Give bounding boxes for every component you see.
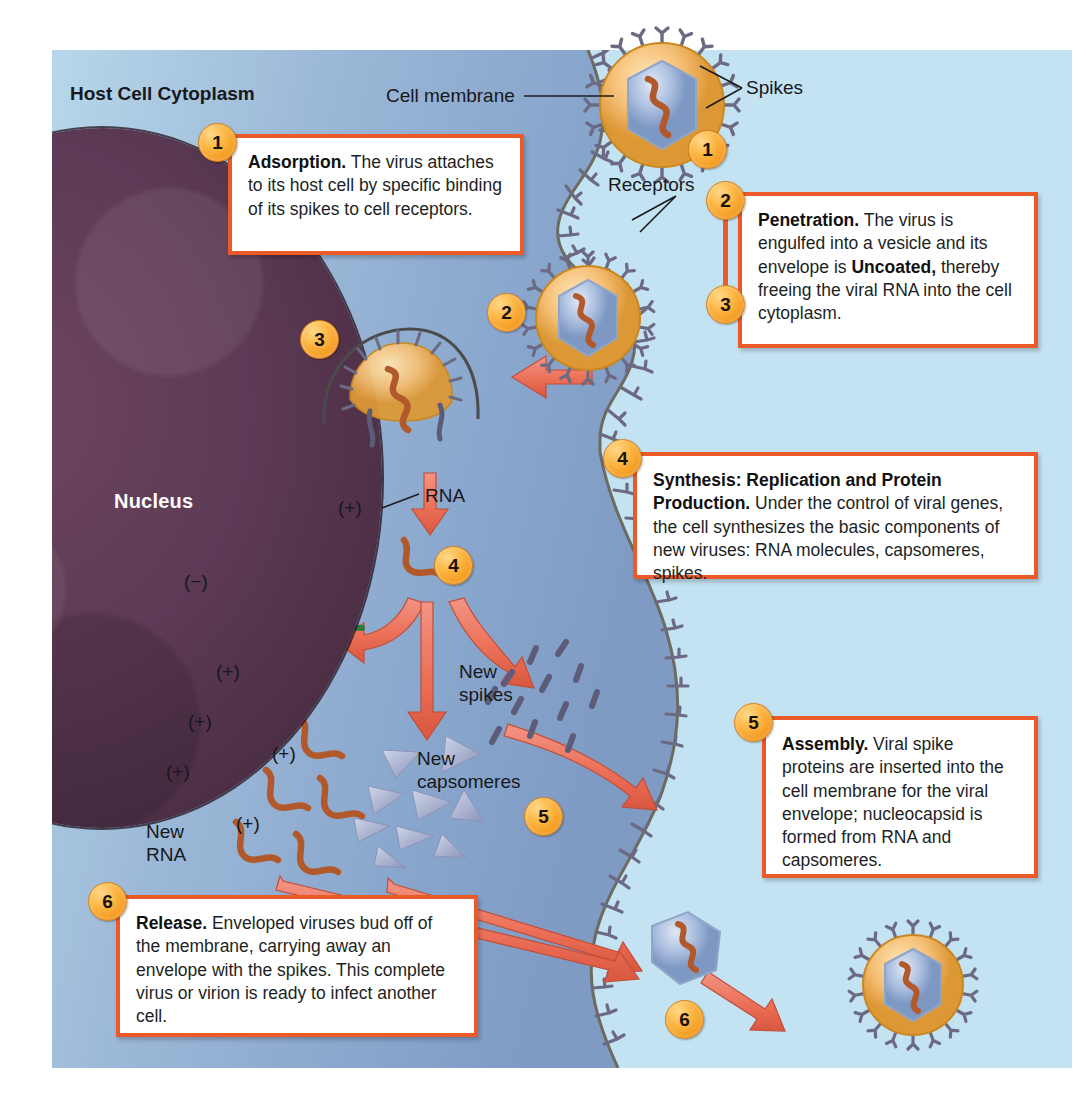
badge-step-4[interactable]: 4 [603, 439, 642, 478]
badge-step-5[interactable]: 5 [734, 703, 773, 742]
new-spikes-label: New spikes [459, 660, 513, 706]
nucleus-label: Nucleus [114, 490, 193, 513]
badge-step-1[interactable]: 1 [198, 123, 237, 162]
stage-marker-6[interactable]: 6 [665, 1000, 704, 1039]
receptors-label: Receptors [608, 173, 695, 196]
polarity-plus-3: (+) [272, 742, 296, 765]
rna-label: RNA [425, 484, 465, 507]
polarity-plus-2: (+) [188, 710, 212, 733]
callout-assembly: Assembly. Viral spike proteins are inser… [762, 716, 1038, 878]
new-rna-label: New RNA [146, 820, 186, 866]
callout-synthesis: Synthesis: Replication and Protein Produ… [633, 452, 1038, 579]
polarity-minus: (−) [184, 570, 208, 593]
callout-assembly-body: Viral spike proteins are inserted into t… [782, 734, 1004, 870]
callout-uncoated-title: Uncoated, [851, 257, 936, 277]
callout-adsorption: Adsorption. The virus attaches to its ho… [228, 134, 524, 255]
stage-marker-1[interactable]: 1 [688, 130, 727, 169]
virus-replication-diagram: Nucleus Host Cell Cytoplasm [0, 0, 1086, 1108]
badge-step-3[interactable]: 3 [706, 285, 745, 324]
new-capsomeres-label: New capsomeres [417, 747, 521, 793]
host-cell-cytoplasm-label: Host Cell Cytoplasm [70, 83, 255, 105]
callout-assembly-title: Assembly. [782, 734, 868, 754]
spikes-label: Spikes [746, 76, 803, 99]
callout-adsorption-title: Adsorption. [248, 152, 346, 172]
stage-marker-5[interactable]: 5 [524, 797, 563, 836]
stage-marker-2[interactable]: 2 [487, 293, 526, 332]
stage-marker-3[interactable]: 3 [300, 320, 339, 359]
badge-step-6[interactable]: 6 [88, 882, 127, 921]
polarity-plus-1: (+) [216, 660, 240, 683]
polarity-plus-4: (+) [166, 760, 190, 783]
badge-step-2[interactable]: 2 [706, 181, 745, 220]
callout-release-title: Release. [136, 913, 207, 933]
callout-release: Release. Enveloped viruses bud off of th… [116, 895, 478, 1037]
callout-penetration-title: Penetration. [758, 210, 859, 230]
polarity-plus-primary: (+) [338, 496, 362, 519]
cell-membrane-label: Cell membrane [386, 84, 515, 107]
callout-penetration-uncoating: Penetration. The virus is engulfed into … [738, 192, 1038, 348]
polarity-plus-5: (+) [236, 812, 260, 835]
stage-marker-4[interactable]: 4 [434, 546, 473, 585]
